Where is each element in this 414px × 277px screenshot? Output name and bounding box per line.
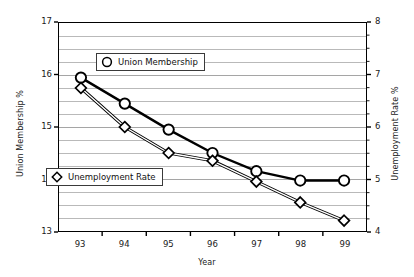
legend-union-label: Union Membership (118, 57, 198, 67)
x-tick-label: 97 (244, 239, 270, 249)
circle-marker-icon (101, 56, 113, 68)
left-tick-label: 15 (30, 121, 52, 131)
left-tick-label: 13 (30, 226, 52, 236)
data-point (120, 98, 130, 108)
x-tick-label: 95 (155, 239, 181, 249)
left-axis-title: Union Membership % (16, 74, 25, 194)
right-tick-label: 5 (375, 174, 397, 184)
data-point (76, 72, 86, 82)
legend-unemployment-rate[interactable]: Unemployment Rate (46, 168, 163, 186)
data-point (339, 215, 350, 226)
x-axis-title: Year (0, 258, 414, 267)
x-tick-label: 96 (200, 239, 226, 249)
right-tick-label: 8 (375, 16, 397, 26)
legend-union-membership[interactable]: Union Membership (96, 53, 205, 71)
data-point (251, 166, 261, 176)
legend-unemployment-label: Unemployment Rate (68, 172, 156, 182)
left-tick-label: 16 (30, 69, 52, 79)
chart-container: Union Membership % Unemployment Rate % Y… (0, 0, 414, 277)
data-point (295, 175, 305, 185)
data-point (295, 197, 306, 208)
x-tick-label: 93 (67, 239, 93, 249)
left-tick-label: 17 (30, 16, 52, 26)
x-tick-label: 99 (332, 239, 358, 249)
data-point (163, 124, 173, 134)
right-tick-label: 7 (375, 69, 397, 79)
right-tick-label: 4 (375, 226, 397, 236)
x-tick-label: 94 (111, 239, 137, 249)
diamond-marker-icon (51, 171, 63, 183)
right-tick-label: 6 (375, 121, 397, 131)
x-tick-label: 98 (288, 239, 314, 249)
data-point (339, 175, 349, 185)
data-point (251, 176, 262, 187)
